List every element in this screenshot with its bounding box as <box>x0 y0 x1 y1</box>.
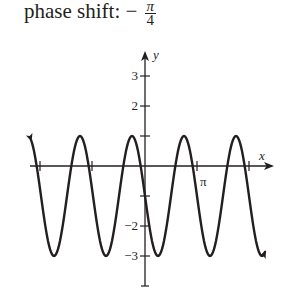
y-tick-label-2: 2 <box>132 98 139 113</box>
y-tick-label-neg3: −3 <box>124 248 138 263</box>
x-axis-label: x <box>258 148 265 163</box>
y-tick-label-neg2: −2 <box>124 218 138 233</box>
x-tick-label-pi: π <box>200 174 207 189</box>
y-axis-label: y <box>151 47 159 62</box>
graph: y x π 3 2 −2 −3 <box>0 0 287 293</box>
y-tick-label-3: 3 <box>132 68 139 83</box>
